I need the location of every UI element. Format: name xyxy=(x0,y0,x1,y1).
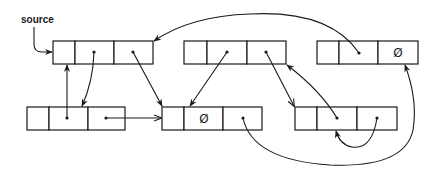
node-f xyxy=(295,107,397,130)
node-f-cell-0 xyxy=(295,107,317,130)
node-c-cell-0 xyxy=(317,41,339,64)
node-e: Ø xyxy=(162,107,262,130)
node-a-cell-0 xyxy=(53,41,75,64)
nil-symbol: Ø xyxy=(393,46,402,60)
nil-symbol: Ø xyxy=(199,112,208,126)
source-label: source xyxy=(21,14,54,25)
arrow-source-to-a xyxy=(34,27,52,52)
node-b-cell-0 xyxy=(184,41,207,64)
node-c: Ø xyxy=(317,41,418,64)
linked-structure-diagram: source Ø Ø xyxy=(0,0,440,177)
node-e-cell-0 xyxy=(162,107,184,130)
node-d-cell-0 xyxy=(27,107,49,130)
